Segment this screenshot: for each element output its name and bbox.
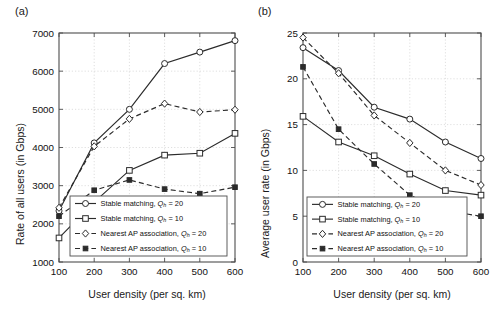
data-point xyxy=(478,181,484,188)
series-0 xyxy=(56,38,238,214)
legend-marker xyxy=(320,246,325,251)
panel-a-plot: 1000200030004000500060007000100200300400… xyxy=(0,0,249,317)
panel-b-plot: 0510152025100200300400500600Stable match… xyxy=(249,0,498,317)
data-point xyxy=(372,162,377,167)
x-tick-label: 200 xyxy=(330,266,347,277)
data-point xyxy=(300,114,306,120)
data-point xyxy=(336,139,342,145)
data-point xyxy=(127,178,132,183)
data-point xyxy=(478,155,484,161)
data-point xyxy=(478,192,484,198)
data-point xyxy=(336,127,341,132)
legend-label: Stable matching, Qh = 10 xyxy=(101,214,184,223)
x-tick-label: 200 xyxy=(86,266,103,277)
panel-a: (a) Rate of all users (in Gbps) User den… xyxy=(0,0,249,317)
y-tick-label: 10 xyxy=(287,165,298,176)
data-point xyxy=(197,150,203,156)
legend: Stable matching, Qh = 20Stable matching,… xyxy=(307,197,467,256)
y-tick-label: 7000 xyxy=(32,28,54,39)
legend-label: Nearest AP association, Qh = 20 xyxy=(338,229,444,238)
legend-label: Nearest AP association, Qh = 10 xyxy=(338,244,444,253)
x-tick-label: 300 xyxy=(366,266,383,277)
x-tick-label: 400 xyxy=(156,266,173,277)
y-tick-label: 4000 xyxy=(32,142,54,153)
legend: Stable matching, Qh = 20Stable matching,… xyxy=(70,196,227,256)
data-point xyxy=(198,191,203,196)
series-1 xyxy=(300,114,484,198)
legend-marker xyxy=(83,246,88,251)
y-tick-label: 25 xyxy=(287,28,298,39)
y-tick-label: 6000 xyxy=(32,66,54,77)
data-point xyxy=(162,61,168,67)
y-tick-label: 20 xyxy=(287,73,298,84)
data-point xyxy=(371,104,377,110)
data-point xyxy=(161,100,167,107)
legend-marker xyxy=(320,216,326,222)
data-point xyxy=(300,45,306,51)
data-point xyxy=(162,187,167,192)
x-tick-label: 100 xyxy=(51,266,68,277)
data-point xyxy=(442,167,448,174)
legend-marker xyxy=(83,201,89,207)
data-point xyxy=(407,139,413,146)
legend-label: Stable matching, Qh = 10 xyxy=(338,215,421,224)
data-point xyxy=(57,214,62,219)
data-point xyxy=(127,168,133,174)
y-tick-label: 5000 xyxy=(32,104,54,115)
data-point xyxy=(233,185,238,190)
series-3 xyxy=(301,65,484,219)
data-point xyxy=(443,188,449,194)
x-tick-label: 600 xyxy=(227,266,244,277)
x-tick-label: 500 xyxy=(192,266,209,277)
legend-marker xyxy=(320,201,326,207)
x-tick-label: 500 xyxy=(437,266,454,277)
figure-container: (a) Rate of all users (in Gbps) User den… xyxy=(0,0,498,317)
data-point xyxy=(407,116,413,122)
data-point xyxy=(301,65,306,70)
y-tick-label: 5 xyxy=(293,211,299,222)
data-point xyxy=(56,235,62,241)
y-tick-label: 2000 xyxy=(32,218,54,229)
panel-b: (b) Average user rate (in Gbps) User den… xyxy=(249,0,498,317)
y-tick-label: 15 xyxy=(287,119,298,130)
data-point xyxy=(126,115,132,122)
data-point xyxy=(232,106,238,113)
data-point xyxy=(92,188,97,193)
data-point xyxy=(197,49,203,55)
legend-label: Nearest AP association, Qh = 10 xyxy=(101,244,207,253)
x-tick-label: 400 xyxy=(402,266,419,277)
data-point xyxy=(232,38,238,44)
data-point xyxy=(442,139,448,145)
y-tick-label: 3000 xyxy=(32,180,54,191)
data-point xyxy=(479,214,484,219)
data-point xyxy=(162,152,168,158)
legend-label: Stable matching, Qh = 20 xyxy=(101,199,184,208)
data-point xyxy=(126,106,132,112)
data-point xyxy=(371,153,377,159)
legend-label: Stable matching, Qh = 20 xyxy=(338,200,421,209)
x-tick-label: 300 xyxy=(121,266,138,277)
data-point xyxy=(232,131,238,137)
x-tick-label: 100 xyxy=(295,266,312,277)
x-tick-label: 600 xyxy=(473,266,490,277)
legend-label: Nearest AP association, Qh = 20 xyxy=(101,229,207,238)
data-point xyxy=(407,171,413,177)
series-2 xyxy=(56,100,238,211)
legend-marker xyxy=(83,216,89,222)
